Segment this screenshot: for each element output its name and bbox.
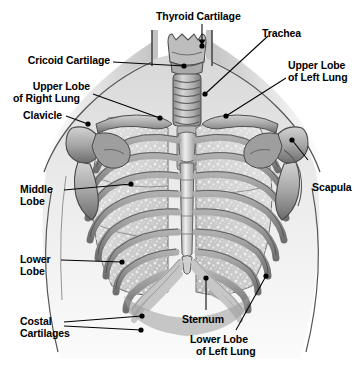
label-cricoid-cartilage: Cricoid Cartilage <box>8 55 110 67</box>
thyroid-cartilage-shape <box>168 34 206 65</box>
label-trachea: Trachea <box>262 28 301 40</box>
dot-middle-lobe <box>128 181 133 186</box>
label-scapula: Scapula <box>312 182 352 194</box>
dot-costal-cartilages-1 <box>139 313 144 318</box>
label-lower-lobe-line1: Lower <box>20 254 50 266</box>
label-middle-lobe-line2: Lobe <box>20 196 45 208</box>
label-lower-lobe-line2: Lobe <box>20 266 45 278</box>
label-costal-cartilages-line2: Cartilages <box>20 328 70 340</box>
dot-thyroid-cartilage <box>199 43 204 48</box>
dot-lower-lobe-left <box>263 273 268 278</box>
dot-upper-lobe-right <box>157 115 162 120</box>
dot-sternum <box>203 275 208 280</box>
label-thyroid-cartilage: Thyroid Cartilage <box>156 11 241 23</box>
label-sternum: Sternum <box>182 314 224 326</box>
label-upper-lobe-left-lung-line1: Upper Lobe <box>288 60 345 72</box>
dot-trachea <box>202 91 207 96</box>
dot-upper-lobe-left <box>223 113 228 118</box>
dot-cricoid-cartilage <box>181 63 186 68</box>
label-upper-lobe-right-lung-line1: Upper Lobe <box>4 81 90 93</box>
dot-lower-lobe <box>119 259 124 264</box>
label-upper-lobe-left-lung-line2: of Left Lung <box>288 72 347 84</box>
label-clavicle: Clavicle <box>4 110 62 122</box>
label-upper-lobe-right-lung-line2: of Right Lung <box>13 93 80 105</box>
label-lower-lobe-left-lung-line2: of Left Lung <box>196 346 255 358</box>
dot-costal-cartilages-2 <box>138 327 143 332</box>
dot-scapula <box>289 137 294 142</box>
dot-clavicle <box>85 121 90 126</box>
label-costal-cartilages-line1: Costal <box>20 316 52 328</box>
label-middle-lobe-line1: Middle <box>20 184 53 196</box>
label-lower-lobe-left-lung-line1: Lower Lobe <box>190 334 248 346</box>
